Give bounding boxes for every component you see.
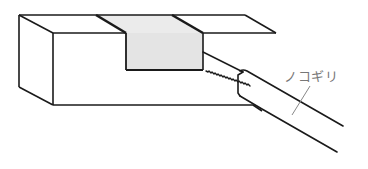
saw-handle-bottom bbox=[240, 96, 337, 152]
diagram-canvas: ノコギリ bbox=[0, 0, 368, 169]
saw-teeth bbox=[206, 71, 250, 86]
saw-handle-joint bbox=[238, 72, 243, 96]
saw-label: ノコギリ bbox=[284, 66, 338, 85]
saw-blade-top-edge bbox=[203, 52, 243, 72]
groove-front-face bbox=[126, 33, 203, 70]
label-leader-line bbox=[292, 86, 310, 115]
